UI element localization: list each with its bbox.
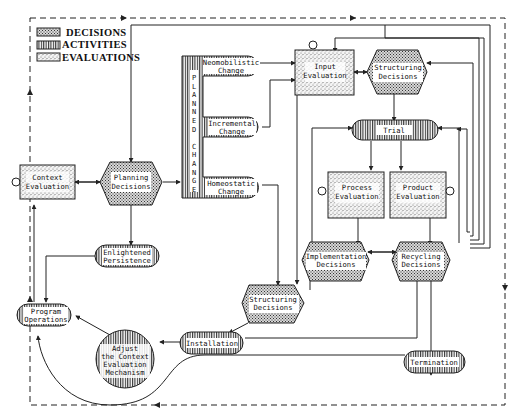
planned-change-letter: N (192, 100, 196, 108)
svg-text:Installation: Installation (186, 339, 238, 348)
svg-text:Context: Context (32, 173, 62, 182)
svg-text:Structuring: Structuring (374, 63, 422, 72)
legend-swatch-activities (37, 41, 60, 49)
planned-change-letter: E (192, 186, 196, 194)
svg-text:Decisions: Decisions (402, 260, 441, 269)
node-enlightened-persistence[interactable]: Enlightened Persistence (95, 245, 159, 267)
svg-text:Input: Input (314, 62, 336, 71)
svg-text:Evaluation: Evaluation (26, 182, 69, 191)
legend: DECISIONS ACTIVITIES EVALUATIONS (37, 27, 140, 63)
svg-text:Change: Change (219, 127, 245, 136)
node-installation[interactable]: Installation (180, 332, 243, 354)
legend-label-activities: ACTIVITIES (62, 39, 127, 50)
svg-text:Persistence: Persistence (103, 256, 151, 265)
planned-change-letter: C (192, 143, 196, 151)
legend-label-decisions: DECISIONS (66, 27, 126, 38)
node-adjust-context-evaluation-mechanism[interactable]: Adjust the Context Evaluation Mechanism (96, 330, 154, 388)
svg-text:Termination: Termination (410, 358, 458, 367)
node-process-evaluation[interactable]: Process Evaluation (318, 172, 384, 218)
node-structuring-decisions-bottom[interactable]: Structuring Decisions (242, 285, 304, 323)
svg-text:Evaluation: Evaluation (335, 192, 378, 201)
planned-change-letter: P (192, 74, 196, 82)
planned-change-letter: E (192, 117, 196, 125)
svg-text:Change: Change (218, 66, 244, 75)
svg-text:Decisions: Decisions (379, 72, 418, 81)
node-termination[interactable]: Termination (404, 351, 465, 373)
node-planned-change[interactable]: PLANNEDCHANGE Neomobilistic Change Incre… (182, 56, 259, 198)
planned-change-letter: G (192, 177, 196, 185)
node-planning-decisions[interactable]: Planning Decisions (100, 162, 162, 205)
svg-text:Operations: Operations (24, 315, 67, 324)
legend-swatch-evaluations (37, 53, 60, 61)
svg-text:Mechanism: Mechanism (106, 368, 145, 377)
planned-change-letter: N (192, 169, 196, 177)
svg-text:Decisions: Decisions (112, 182, 151, 191)
svg-text:Process: Process (342, 183, 372, 192)
node-trial[interactable]: Trial (352, 120, 438, 140)
svg-text:Change: Change (218, 187, 244, 196)
node-implementation-decisions[interactable]: Implementation Decisions (302, 242, 369, 281)
planned-change-letter: H (192, 151, 196, 159)
cipp-flowchart: DECISIONS ACTIVITIES EVALUATIONS (0, 0, 522, 414)
svg-text:Planning: Planning (114, 173, 149, 182)
planned-change-letter: D (192, 126, 196, 134)
node-product-evaluation[interactable]: Product Evaluation (390, 172, 454, 218)
planned-change-letter: L (192, 83, 196, 91)
svg-text:Evaluation: Evaluation (396, 192, 439, 201)
svg-text:Trial: Trial (383, 126, 405, 135)
node-recycling-decisions[interactable]: Recycling Decisions (392, 242, 450, 281)
svg-text:Decisions: Decisions (254, 303, 293, 312)
node-structuring-decisions-top[interactable]: Structuring Decisions (367, 50, 427, 94)
svg-text:Decisions: Decisions (317, 260, 356, 269)
node-program-operations[interactable]: Program Operations (17, 304, 71, 326)
node-context-evaluation[interactable]: Context Evaluation (12, 165, 75, 199)
node-input-evaluation[interactable]: Input Evaluation (295, 41, 354, 95)
svg-text:Evaluation: Evaluation (303, 71, 346, 80)
legend-label-evaluations: EVALUATIONS (62, 52, 140, 63)
svg-text:Product: Product (403, 183, 433, 192)
planned-change-letter: N (192, 108, 196, 116)
legend-swatch-decisions (37, 28, 60, 36)
